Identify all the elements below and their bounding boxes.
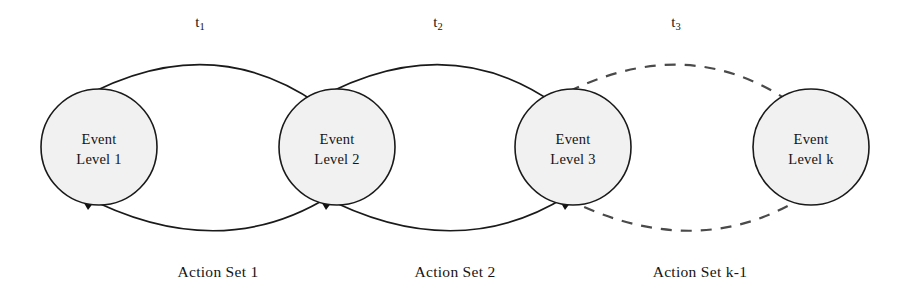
node-levelk-circle[interactable]: [753, 89, 869, 205]
edge-label-t2: t2: [433, 14, 442, 32]
edge-label-action-set-2: Action Set 2: [414, 263, 495, 280]
node-level2[interactable]: Event Level 2: [279, 89, 395, 205]
node-level2-line2: Level 2: [314, 151, 359, 167]
node-level2-circle[interactable]: [279, 89, 395, 205]
edge-label-action-set-1: Action Set 1: [177, 263, 258, 280]
diagram-canvas: Event Level 1 Event Level 2 Event Level …: [0, 0, 908, 295]
node-level3-line1: Event: [556, 131, 591, 147]
node-level1-circle[interactable]: [41, 89, 157, 205]
node-level3-line2: Level 3: [550, 151, 595, 167]
edge-label-t2-subscript: 2: [437, 21, 442, 32]
edge-label-t1-subscript: 1: [199, 21, 204, 32]
node-levelk-line2: Level k: [788, 151, 834, 167]
edge-label-t3: t3: [671, 14, 680, 32]
edge-label-action-set-k-1: Action Set k-1: [653, 263, 748, 280]
node-levelk[interactable]: Event Level k: [753, 89, 869, 205]
node-level3[interactable]: Event Level 3: [515, 89, 631, 205]
node-level1-line2: Level 1: [76, 151, 121, 167]
node-levelk-line1: Event: [794, 131, 829, 147]
node-level2-line1: Event: [320, 131, 355, 147]
event-level-diagram: Event Level 1 Event Level 2 Event Level …: [0, 0, 908, 295]
node-level1[interactable]: Event Level 1: [41, 89, 157, 205]
node-level3-circle[interactable]: [515, 89, 631, 205]
edge-label-t1: t1: [195, 14, 204, 32]
edge-label-t3-subscript: 3: [675, 21, 680, 32]
node-level1-line1: Event: [82, 131, 117, 147]
